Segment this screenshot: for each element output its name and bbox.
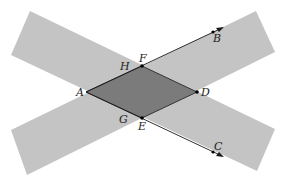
label-D: D xyxy=(200,86,210,99)
point-D xyxy=(195,90,199,94)
label-G: G xyxy=(119,113,128,126)
label-C: C xyxy=(214,140,223,153)
geometry-figure: A F H D G E B C xyxy=(0,0,290,189)
label-B: B xyxy=(212,32,221,45)
label-H: H xyxy=(119,60,130,73)
label-F: F xyxy=(138,52,147,65)
label-A: A xyxy=(75,86,84,99)
label-E: E xyxy=(137,120,146,133)
diagram-canvas: A F H D G E B C xyxy=(0,0,290,189)
